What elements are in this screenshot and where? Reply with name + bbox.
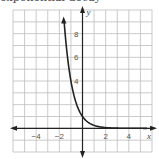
svg-text:4: 4 — [74, 77, 79, 86]
svg-text:2: 2 — [103, 132, 108, 141]
svg-text:4: 4 — [127, 132, 132, 141]
chart: −4−224468xy — [0, 0, 159, 159]
svg-text:y: y — [86, 7, 91, 17]
svg-text:−4: −4 — [32, 132, 42, 141]
svg-text:6: 6 — [74, 53, 79, 62]
tick-labels: −4−224468xy — [32, 7, 151, 141]
svg-text:8: 8 — [74, 30, 79, 39]
svg-text:−2: −2 — [55, 132, 65, 141]
curve-arrow — [61, 17, 66, 24]
svg-text:x: x — [146, 131, 151, 141]
